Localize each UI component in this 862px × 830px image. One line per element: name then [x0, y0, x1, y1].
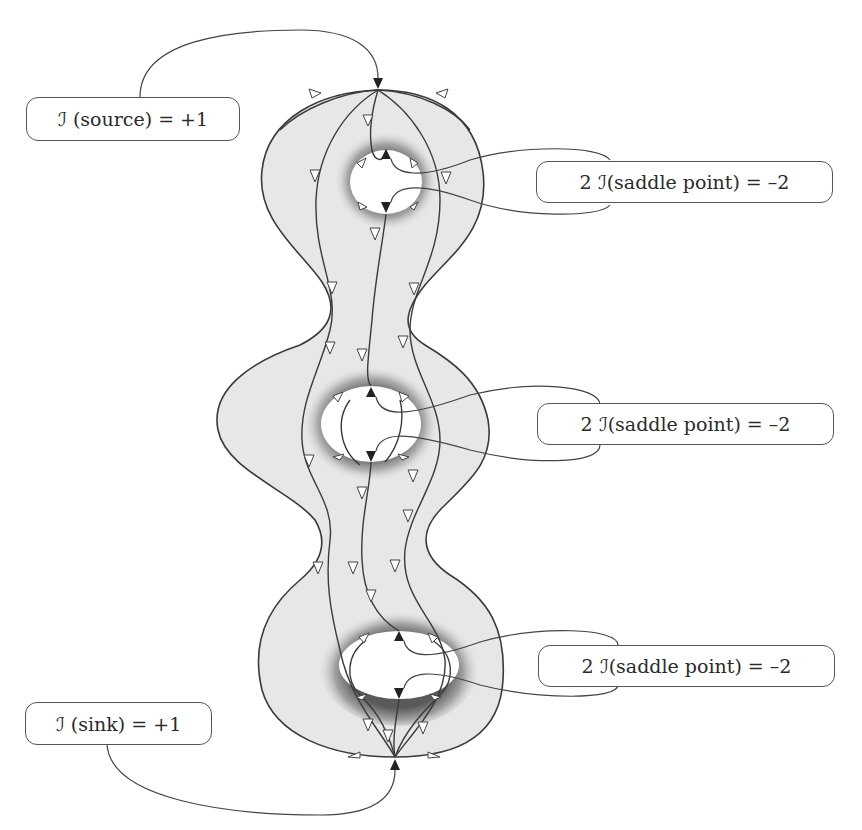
saddle-middle-index-label: 2 ℐ(saddle point) = –2 [537, 403, 834, 445]
source-marker [373, 78, 383, 89]
saddle-top-index-label: 2 ℐ(saddle point) = –2 [536, 161, 833, 203]
saddle-bottom-index-label: 2 ℐ(saddle point) = –2 [538, 645, 835, 687]
leader-source [140, 30, 378, 97]
leader-sink [107, 744, 395, 815]
source-index-label: ℐ (source) = +1 [26, 97, 240, 141]
sink-index-label: ℐ (sink) = +1 [25, 702, 212, 745]
sink-marker [390, 759, 400, 770]
